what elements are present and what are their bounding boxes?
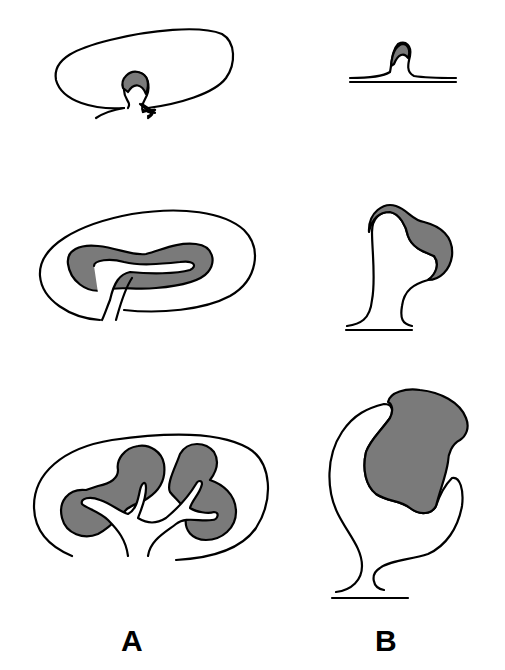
a-stage-3 (34, 435, 268, 560)
a-stage-1 (56, 29, 233, 118)
b-stage-2 (346, 205, 452, 330)
diagram-figure (0, 0, 505, 670)
b-stage-3 (329, 390, 467, 599)
column-a-label: A (121, 624, 143, 658)
column-b-label: B (375, 624, 397, 658)
b-stage-1 (350, 43, 456, 82)
a-stage-2 (40, 211, 255, 320)
